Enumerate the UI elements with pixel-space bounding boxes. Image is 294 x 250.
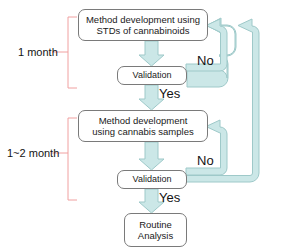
node-method-development-stds-label: Method development using STDs of cannabi…: [86, 14, 200, 36]
node-validation-1: Validation: [117, 66, 187, 85]
arrow-method-samples-to-validation-2: [139, 142, 164, 170]
node-method-development-samples: Method development using cannabis sample…: [78, 110, 208, 142]
node-validation-2: Validation: [117, 170, 187, 189]
node-method-development-samples-label: Method development using cannabis sample…: [92, 115, 193, 137]
node-validation-2-label: Validation: [133, 174, 172, 185]
bracket-label-duration-1: 1 month: [18, 46, 58, 58]
arrow-method-std-to-validation-1: [139, 41, 164, 66]
node-routine-analysis: Routine Analysis: [124, 213, 187, 247]
bracket-label-duration-2: 1~2 month: [7, 147, 59, 159]
node-method-development-stds: Method development using STDs of cannabi…: [78, 9, 208, 41]
node-routine-analysis-label: Routine Analysis: [138, 219, 173, 241]
edge-label-no-1: No: [197, 53, 214, 68]
bracket-duration-2: [68, 118, 77, 200]
node-validation-1-label: Validation: [133, 70, 172, 81]
edge-label-no-2: No: [197, 153, 214, 168]
flowchart-diagram: .arrow { fill: #cbe7e7; stroke: #9ec9c9;…: [0, 0, 294, 250]
edge-label-yes-2: Yes: [159, 190, 180, 205]
bracket-duration-1: [68, 17, 77, 88]
edge-label-yes-1: Yes: [159, 86, 180, 101]
